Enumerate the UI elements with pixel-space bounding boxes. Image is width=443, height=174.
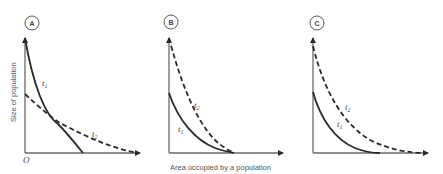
svg-text:t1: t1 — [42, 78, 48, 89]
curve-t1-label: t1 — [178, 124, 184, 135]
x-axis-title: Area occupied by a population — [170, 163, 271, 172]
curve-t2-label: t2 — [194, 100, 200, 111]
svg-text:t1: t1 — [178, 124, 184, 135]
panel-label: A — [30, 20, 35, 27]
panel-a: A O t1 t2 — [23, 16, 140, 165]
panel-label: B — [169, 19, 174, 26]
curve-t1-label: t1 — [42, 78, 48, 89]
curve-t1 — [25, 38, 83, 153]
y-axis-title: Size of population — [9, 62, 18, 122]
svg-text:t2: t2 — [92, 129, 98, 140]
curve-t2-label: t2 — [345, 102, 351, 113]
curve-t2-label: t2 — [92, 129, 98, 140]
svg-text:t1: t1 — [337, 119, 343, 130]
panel-label: C — [315, 20, 320, 27]
curve-t2 — [169, 38, 234, 153]
curve-t1-label: t1 — [337, 119, 343, 130]
curve-t2 — [313, 46, 425, 153]
svg-text:t2: t2 — [345, 102, 351, 113]
panel-c: C t2 t1 — [310, 16, 428, 153]
population-area-diagram: Size of population A O t1 t2 B t2 t1 — [0, 0, 443, 174]
panel-b: B t2 t1 Area occupied by a population — [164, 15, 283, 172]
svg-text:t2: t2 — [194, 100, 200, 111]
origin-label: O — [23, 155, 30, 165]
